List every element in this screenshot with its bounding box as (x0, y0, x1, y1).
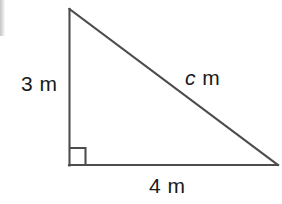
hypotenuse-label: c m (185, 67, 220, 88)
hypotenuse-variable-text: c (185, 66, 196, 89)
right-triangle-diagram (0, 0, 282, 204)
hypotenuse-line (70, 9, 279, 165)
hypotenuse-unit-text: m (196, 66, 220, 89)
vertical-leg-label: 3 m (21, 73, 58, 94)
horizontal-leg-label: 4 m (149, 175, 186, 196)
figure-canvas: 3 m c m 4 m (0, 0, 282, 204)
right-angle-marker-icon (70, 148, 86, 165)
triangle-outline (69, 9, 278, 166)
